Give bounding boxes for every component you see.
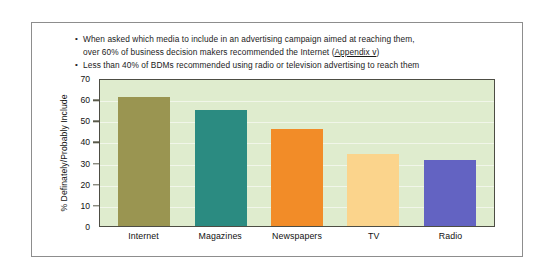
x-tick-label-radio: Radio (412, 231, 489, 241)
bullet-list: • When asked which media to include in a… (75, 33, 515, 73)
bars-layer (100, 80, 494, 226)
bullet-text-1: When asked which media to include in an … (83, 33, 415, 58)
y-tick-label: 30 (80, 159, 90, 168)
x-tick-label-magazines: Magazines (182, 231, 259, 241)
x-tick-label-newspapers: Newspapers (259, 231, 336, 241)
y-tick-label: 20 (80, 180, 90, 189)
bar-slot (412, 80, 488, 226)
bullet-text-2: Less than 40% of BDMs recommended using … (83, 59, 419, 72)
bullet-2-line-1: Less than 40% of BDMs recommended using … (83, 60, 419, 70)
y-axis-tick-labels: 706050403020100 (72, 79, 93, 227)
bullet-marker-icon: • (75, 59, 83, 72)
bullet-1-line-2-suffix: ) (376, 47, 379, 57)
slide-card: • When asked which media to include in a… (31, 22, 523, 257)
y-tick-label: 60 (80, 96, 90, 105)
bullet-marker-icon: • (75, 33, 83, 46)
bar-magazines[interactable] (195, 110, 247, 226)
y-tick-label: 70 (80, 75, 90, 84)
bullet-1-line-1: When asked which media to include in an … (83, 34, 415, 44)
x-axis-tick-labels: InternetMagazinesNewspapersTVRadio (99, 231, 495, 241)
plot-area (99, 79, 495, 227)
bar-newspapers[interactable] (271, 129, 323, 226)
appendix-reference-link[interactable]: Appendix v (335, 47, 377, 57)
bullet-item-2: • Less than 40% of BDMs recommended usin… (75, 59, 515, 72)
x-tick-label-tv: TV (335, 231, 412, 241)
x-tick-label-internet: Internet (105, 231, 182, 241)
bullet-item-1: • When asked which media to include in a… (75, 33, 515, 58)
y-tick-label: 10 (80, 201, 90, 210)
bar-slot (106, 80, 182, 226)
bar-slot (335, 80, 411, 226)
y-tick-label: 50 (80, 117, 90, 126)
bullet-1-line-2-prefix: over 60% of business decision makers rec… (83, 47, 335, 57)
y-axis-title: % Definately/Probably Include (57, 79, 71, 227)
bar-internet[interactable] (118, 97, 170, 226)
bar-slot (182, 80, 258, 226)
bar-slot (259, 80, 335, 226)
y-tick-label: 0 (85, 223, 90, 232)
y-tick-label: 40 (80, 138, 90, 147)
bar-radio[interactable] (424, 160, 476, 226)
bar-tv[interactable] (347, 154, 399, 226)
bar-chart: % Definately/Probably Include 7060504030… (59, 79, 509, 251)
y-axis-title-label: % Definately/Probably Include (59, 94, 69, 211)
